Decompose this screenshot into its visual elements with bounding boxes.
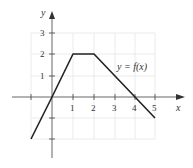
x-tick-5: 5 bbox=[152, 103, 157, 113]
y-tick-1: 1 bbox=[40, 71, 45, 81]
curve-label: y = f(x) bbox=[116, 61, 148, 73]
y-tick-2: 2 bbox=[40, 49, 45, 59]
x-tick-3: 3 bbox=[112, 103, 117, 113]
x-tick-2: 2 bbox=[91, 103, 96, 113]
y-axis-label: y bbox=[40, 7, 46, 18]
function-graph: 1 2 3 4 5 1 2 3 x y y = f(x) bbox=[0, 0, 193, 168]
y-axis-arrow-icon bbox=[49, 11, 55, 19]
grid bbox=[31, 33, 155, 139]
ticks bbox=[31, 33, 155, 139]
y-tick-3: 3 bbox=[40, 28, 45, 38]
x-tick-1: 1 bbox=[70, 103, 75, 113]
x-axis-arrow-icon bbox=[176, 94, 185, 100]
x-tick-4: 4 bbox=[132, 103, 137, 113]
x-axis-label: x bbox=[175, 102, 181, 113]
